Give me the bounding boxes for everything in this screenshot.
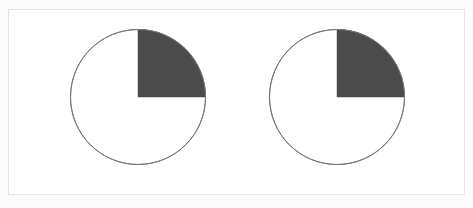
- plot-frame: [8, 9, 465, 195]
- pie-right-wedge-shaded: [337, 30, 405, 98]
- pie-chart-right-svg: [9, 10, 464, 194]
- pie-chart-right: [9, 10, 464, 194]
- figure-root: [0, 0, 473, 208]
